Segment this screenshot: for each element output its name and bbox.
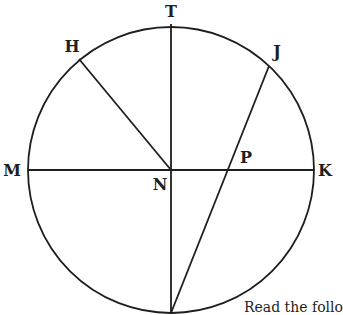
chord-j-bottom: [171, 66, 269, 313]
radius-hn: [79, 59, 171, 170]
caption-text: Read the follo: [244, 299, 343, 315]
label-m: M: [3, 161, 21, 180]
label-k: K: [318, 161, 333, 180]
label-j: J: [271, 42, 281, 61]
label-t: T: [165, 2, 177, 21]
label-n: N: [153, 175, 168, 194]
label-h: H: [64, 37, 79, 56]
label-p: P: [240, 148, 252, 167]
